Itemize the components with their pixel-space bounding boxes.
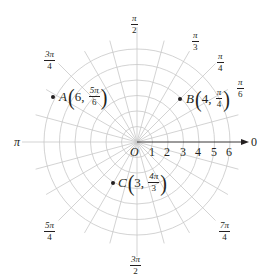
angle-label-pi: π [14,136,20,148]
point-c-dot [111,181,115,185]
radial-tick-4: 4 [195,146,201,158]
angle-label-pi-over-3: π3 [192,31,199,52]
polar-axis-zero-label: 0 [251,136,257,148]
point-a-dot [51,95,55,99]
point-b-label: B(4, π4) [186,88,230,109]
radial-tick-3: 3 [180,146,186,158]
point-a-label: A(6, 5π6) [59,86,107,107]
angle-label-pi-over-4: π4 [217,52,224,73]
radial-tick-1: 1 [149,146,155,158]
angle-label-pi-over-6: π6 [237,78,244,99]
polar-diagram: π2 π3 π4 π6 3π4 π 5π4 3π2 7π4 0 O 1 2 3 … [0,0,261,277]
radial-tick-5: 5 [211,146,217,158]
angle-label-7pi-over-4: 7π4 [219,221,230,242]
radial-tick-2: 2 [164,146,170,158]
point-c-label: C(3, 4π3) [118,172,167,193]
radial-tick-6: 6 [226,146,232,158]
origin-label: O [130,146,139,158]
polar-axis-arrow-icon [241,139,249,145]
angle-label-3pi-over-4: 3π4 [44,50,55,71]
angle-label-3pi-over-2: 3π2 [130,255,141,276]
point-b-dot [178,97,182,101]
angle-label-5pi-over-4: 5π4 [44,221,55,242]
angle-label-pi-over-2: π2 [131,14,138,35]
